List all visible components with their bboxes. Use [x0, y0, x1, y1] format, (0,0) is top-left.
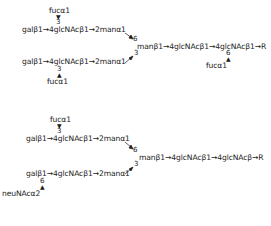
arrow-head-icon	[129, 35, 133, 39]
linkage-lines	[0, 0, 271, 226]
